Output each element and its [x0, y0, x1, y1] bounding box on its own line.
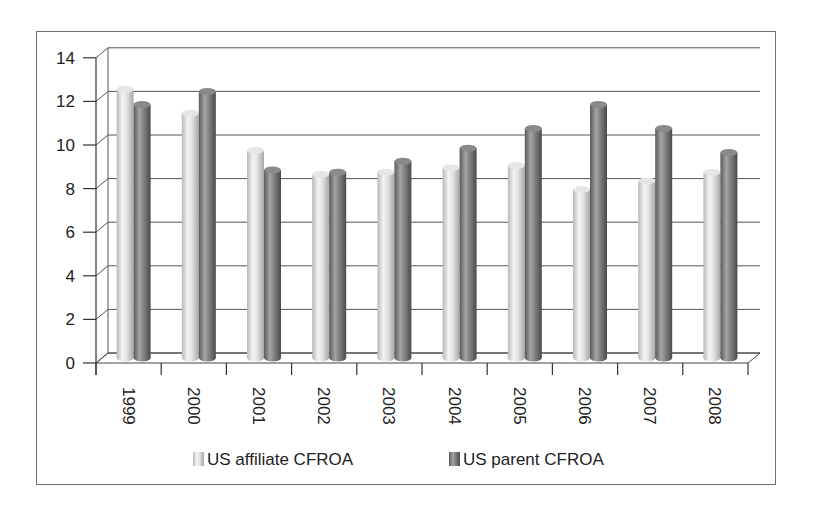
legend-label-affiliate: US affiliate CFROA — [207, 450, 354, 469]
y-tick-label: 6 — [66, 223, 75, 242]
x-tick-label: 2007 — [640, 387, 659, 425]
bar-1999-parent — [134, 101, 151, 361]
legend-item-affiliate: US affiliate CFROA — [193, 450, 354, 469]
y-tick-label: 12 — [56, 92, 75, 111]
y-axis-labels: 02468101214 — [56, 49, 75, 373]
bar-2007-affiliate — [638, 177, 655, 361]
x-tick-label: 2006 — [575, 387, 594, 425]
x-tick-label: 2000 — [184, 387, 203, 425]
x-tick-label: 2008 — [705, 387, 724, 425]
legend-swatch-affiliate-icon — [193, 452, 204, 466]
y-tick-label: 8 — [66, 180, 75, 199]
bar-2003-affiliate — [377, 169, 394, 362]
legend-item-parent: US parent CFROA — [449, 450, 604, 469]
bar-chart: 02468101214 1999200020012002200320042005… — [0, 0, 813, 510]
bar-2005-parent — [525, 125, 542, 361]
bar-2008-affiliate — [703, 169, 720, 362]
x-tick-label: 1999 — [119, 387, 138, 425]
x-tick-label: 2002 — [314, 387, 333, 425]
y-tick-label: 2 — [66, 310, 75, 329]
bar-2006-parent — [590, 101, 607, 361]
x-tick-label: 2005 — [510, 387, 529, 425]
x-tick-label: 2003 — [379, 387, 398, 425]
bar-2008-parent — [720, 149, 737, 361]
bars — [117, 86, 738, 362]
legend-swatch-parent-icon — [449, 452, 460, 466]
x-axis-labels: 1999200020012002200320042005200620072008 — [119, 387, 725, 425]
bar-2003-parent — [394, 158, 411, 362]
bar-2006-affiliate — [573, 186, 590, 361]
bar-1999-affiliate — [117, 86, 134, 362]
y-tick-label: 4 — [66, 267, 75, 286]
legend-label-parent: US parent CFROA — [463, 450, 604, 469]
x-tick-label: 2004 — [445, 387, 464, 425]
bar-2000-parent — [199, 88, 216, 362]
bar-2002-parent — [329, 169, 346, 362]
bar-2004-affiliate — [443, 164, 460, 361]
bar-2004-parent — [460, 145, 477, 362]
bar-2000-affiliate — [182, 110, 199, 362]
bar-2007-parent — [655, 125, 672, 361]
y-tick-label: 14 — [56, 49, 75, 68]
y-tick-label: 0 — [66, 354, 75, 373]
legend: US affiliate CFROA US parent CFROA — [193, 450, 604, 469]
bar-2005-affiliate — [508, 162, 525, 361]
y-tick-label: 10 — [56, 136, 75, 155]
x-tick-label: 2001 — [249, 387, 268, 425]
bar-2001-affiliate — [247, 147, 264, 362]
bar-2002-affiliate — [312, 171, 329, 362]
bar-2001-parent — [264, 166, 281, 361]
